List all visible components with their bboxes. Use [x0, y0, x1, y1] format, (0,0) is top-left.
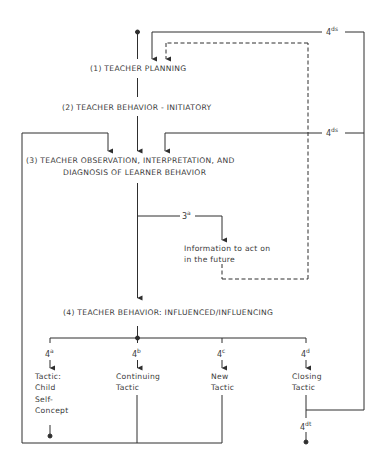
tactic-continuing: Continuing Tactic — [116, 371, 160, 394]
node-teacher-behavior-influenced: (4) TEACHER BEHAVIOR: INFLUENCED/INFLUEN… — [63, 308, 273, 317]
node-future-information: Information to act on in the future — [184, 243, 270, 266]
code-4ds-top: 4ds — [326, 25, 338, 37]
code-4d: 4d — [301, 347, 310, 359]
code-3a: 3a — [182, 209, 191, 221]
tactic-closing: Closing Tactic — [292, 371, 322, 394]
node-observation-line1: (3) TEACHER OBSERVATION, INTERPRETATION,… — [26, 156, 235, 165]
code-4b: 4b — [132, 347, 141, 359]
node-teacher-behavior-initiatory: (2) TEACHER BEHAVIOR - INITIATORY — [62, 103, 211, 112]
code-4c: 4c — [217, 347, 225, 359]
code-4a: 4a — [45, 347, 54, 359]
tactic-new: New Tactic — [211, 371, 234, 394]
tactic-child-self-concept: Tactic: Child Self- Concept — [35, 371, 69, 416]
node-teacher-planning: (1) TEACHER PLANNING — [90, 64, 187, 73]
node-observation-line2: DIAGNOSIS OF LEARNER BEHAVIOR — [63, 168, 206, 177]
code-4ds-mid: 4ds — [326, 126, 338, 138]
code-4dt: 4dt — [300, 420, 311, 432]
